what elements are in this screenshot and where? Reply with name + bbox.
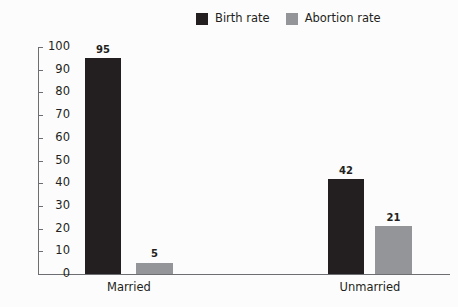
bar-value-married-birth-rate: 95 [85,45,121,55]
y-tick-label-20: 20 [12,223,70,235]
y-tick-40: 40 [38,183,43,184]
y-tick-50: 50 [38,161,43,162]
bar-value-married-abortion-rate: 5 [136,249,173,259]
y-tick-label-60: 60 [12,132,70,144]
bar-unmarried-birth-rate [328,179,364,274]
bar-value-unmarried-abortion-rate: 21 [375,213,412,223]
x-axis-label-unmarried: Unmarried [325,282,415,294]
y-tick-20: 20 [38,229,43,230]
y-tick-label-0: 0 [12,268,70,280]
y-tick-90: 90 [38,70,43,71]
bar-married-birth-rate [85,58,121,274]
bar-unmarried-abortion-rate [375,226,412,274]
y-tick-30: 30 [38,206,43,207]
y-tick-10: 10 [38,251,43,252]
x-axis-line [38,274,450,275]
y-tick-100: 100 [38,47,43,48]
y-tick-label-70: 70 [12,109,70,121]
y-tick-70: 70 [38,115,43,116]
y-tick-label-50: 50 [12,155,70,167]
x-axis-label-married: Married [84,282,174,294]
plot-area: 100 90 80 70 60 50 40 30 20 10 0 95 5 42… [0,0,458,307]
y-tick-label-80: 80 [12,86,70,98]
y-tick-label-100: 100 [12,41,70,53]
bar-chart: Birth rate Abortion rate 100 90 80 70 60… [0,0,458,307]
y-tick-60: 60 [38,138,43,139]
y-tick-0: 0 [38,274,43,275]
y-tick-label-90: 90 [12,64,70,76]
y-tick-label-40: 40 [12,177,70,189]
y-tick-label-10: 10 [12,245,70,257]
bar-value-unmarried-birth-rate: 42 [328,166,364,176]
y-tick-80: 80 [38,92,43,93]
y-tick-label-30: 30 [12,200,70,212]
bar-married-abortion-rate [136,263,173,274]
